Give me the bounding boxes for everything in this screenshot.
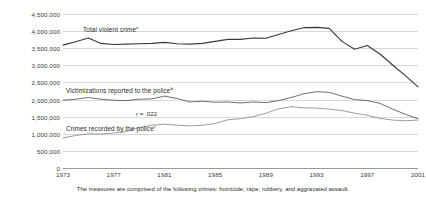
series-label-text: Total violent crime	[83, 26, 136, 33]
correlation-annotation: r = .022	[136, 110, 157, 117]
x-axis-tick-label: 1989	[259, 171, 273, 178]
y-axis-tick-label: 2,500,000	[32, 79, 60, 86]
x-axis-tick-label: 1985	[208, 171, 222, 178]
y-axis-tick-labels: 0500,0001,000,0001,500,0002,000,0002,500…	[0, 14, 60, 168]
y-axis-tick-label: 500,000	[37, 147, 60, 154]
x-axis-tick-label: 1981	[157, 171, 171, 178]
series-label-text: Victimizations reported to the police	[66, 87, 170, 94]
x-axis-tick-label: 1993	[309, 171, 323, 178]
series-label-victimizations-reported: Victimizations reported to the policeb	[66, 86, 173, 94]
violent-crime-trend-chart: 0500,0001,000,0001,500,0002,000,0002,500…	[0, 0, 426, 204]
series-label-total-violent-crime: Total violent crimea	[83, 25, 139, 33]
x-axis-tick-label: 1973	[56, 171, 70, 178]
series-label-crimes-recorded: Crimes recorded by the policec	[66, 124, 156, 132]
footnote-marker-c: c	[154, 124, 156, 129]
series-line-total-violent-crime	[63, 27, 418, 87]
y-axis-tick-label: 1,500,000	[32, 113, 60, 120]
y-axis-tick-label: 3,500,000	[32, 45, 60, 52]
y-axis-tick-label: 4,000,000	[32, 28, 60, 35]
footnote-marker-a: a	[136, 25, 139, 30]
x-axis-tick-labels: 19731977198119851989199319972001	[63, 171, 418, 183]
y-axis-tick-label: 1,000,000	[32, 130, 60, 137]
x-axis-tick-label: 2001	[411, 171, 425, 178]
axis-baseline	[63, 168, 418, 169]
y-axis-tick-label: 2,000,000	[32, 96, 60, 103]
footnote-marker-b: b	[170, 86, 173, 91]
series-label-text: Crimes recorded by the police	[66, 125, 154, 132]
series-line-crimes-recorded-by-the-police	[63, 107, 418, 138]
x-axis-tick-label: 1997	[360, 171, 374, 178]
correlation-value: = .022	[138, 110, 157, 117]
y-axis-tick-label: 4,500,000	[32, 11, 60, 18]
chart-footnote: The measures are comprised of the follow…	[0, 186, 426, 192]
x-axis-tick-label: 1977	[107, 171, 121, 178]
y-axis-tick-label: 3,000,000	[32, 62, 60, 69]
